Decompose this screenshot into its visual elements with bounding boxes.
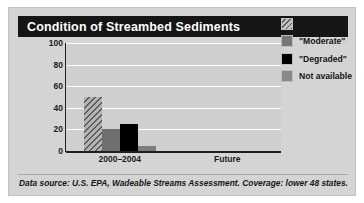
legend-swatch-notavail xyxy=(281,70,293,82)
y-tick-label: 60 xyxy=(54,81,63,91)
page-title: Condition of Streambed Sediments xyxy=(18,20,240,34)
x-tick-label: Future xyxy=(214,154,240,164)
gridline xyxy=(66,43,281,44)
y-axis-tick-labels: 020406080100 xyxy=(42,39,65,151)
chart-legend: "Natural""Moderate""Degraded"Not availab… xyxy=(281,16,364,86)
gridline xyxy=(66,65,281,66)
legend-label: "Degraded" xyxy=(299,54,347,64)
legend-item: Not available xyxy=(281,69,364,84)
y-tick-label: 100 xyxy=(49,38,63,48)
legend-item: "Moderate" xyxy=(281,34,364,49)
bar-not-available xyxy=(138,146,156,151)
legend-swatch-moderate xyxy=(281,35,293,47)
bar-degraded xyxy=(120,124,138,151)
legend-label: "Natural" xyxy=(299,19,337,29)
chart-card: Condition of Streambed Sediments % of St… xyxy=(8,7,356,196)
legend-label: "Moderate" xyxy=(299,36,345,46)
gridline xyxy=(66,86,281,87)
legend-swatch-degraded xyxy=(281,53,293,65)
x-tick-label: 2000–2004 xyxy=(98,154,141,164)
bar-moderate xyxy=(102,129,120,151)
bar-natural xyxy=(84,97,102,151)
plot-area xyxy=(66,43,281,151)
y-tick-label: 40 xyxy=(54,103,63,113)
y-tick-label: 20 xyxy=(54,124,63,134)
footer-divider xyxy=(18,174,348,175)
data-source-note: Data source: U.S. EPA, Wadeable Streams … xyxy=(19,178,351,188)
legend-label: Not available xyxy=(299,71,352,81)
y-tick-label: 0 xyxy=(58,146,63,156)
legend-item: "Natural" xyxy=(281,16,364,31)
legend-item: "Degraded" xyxy=(281,51,364,66)
x-axis-line xyxy=(66,151,281,153)
y-tick-label: 80 xyxy=(54,60,63,70)
legend-swatch-natural xyxy=(281,18,293,30)
